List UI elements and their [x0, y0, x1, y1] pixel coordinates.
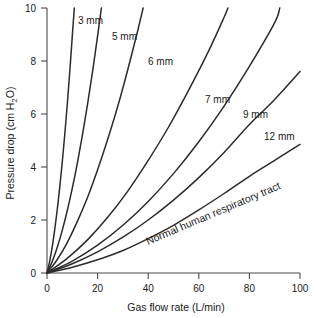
annotation-label: Normal human respiratory tract: [144, 179, 282, 247]
y-axis-title-head: Pressure drop (cm H: [4, 103, 16, 200]
chart-container: 0 2 4 6 8 10 0 20 40 60: [0, 0, 316, 318]
series-label-9mm: 9 mm: [243, 109, 268, 120]
y-tick-label-10: 10: [25, 3, 37, 14]
y-tick-label-2: 2: [30, 215, 36, 226]
x-tick-label-80: 80: [244, 283, 256, 294]
series-label-5mm: 5 mm: [112, 31, 137, 42]
y-tick-label-6: 6: [30, 109, 36, 120]
svg-text:Pressure drop (cm H2O): Pressure drop (cm H2O): [4, 87, 19, 200]
annotation-normal-respiratory-tract: Normal human respiratory tract: [144, 179, 282, 247]
x-tick-label-40: 40: [143, 283, 155, 294]
y-tick-label-0: 0: [30, 268, 36, 279]
curve-3mm: [47, 8, 74, 273]
x-tick-label-0: 0: [44, 283, 50, 294]
curve-7mm: [47, 8, 228, 273]
y-axis-title-tail: O): [4, 87, 16, 99]
x-axis-title: Gas flow rate (L/min): [127, 301, 224, 313]
pressure-flow-chart: 0 2 4 6 8 10 0 20 40 60: [0, 0, 316, 318]
series-label-12mm: 12 mm: [264, 131, 295, 142]
x-axis-tick-labels: 0 20 40 60 80 100: [44, 283, 309, 294]
x-tick-label-100: 100: [292, 283, 309, 294]
series-label-3mm: 3 mm: [78, 15, 103, 26]
x-axis-ticks: [47, 273, 300, 279]
x-tick-label-60: 60: [193, 283, 205, 294]
y-axis-title: Pressure drop (cm H2O): [4, 87, 19, 200]
series-label-6mm: 6 mm: [148, 56, 173, 67]
series-label-7mm: 7 mm: [205, 94, 230, 105]
y-tick-label-8: 8: [30, 56, 36, 67]
x-tick-label-20: 20: [92, 283, 104, 294]
y-axis-ticks: [41, 8, 47, 273]
y-axis-tick-labels: 0 2 4 6 8 10: [25, 3, 37, 279]
y-tick-label-4: 4: [30, 162, 36, 173]
